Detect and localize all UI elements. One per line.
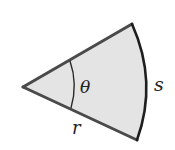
angle-label-theta: θ: [80, 77, 90, 97]
arc-label-s: s: [154, 73, 164, 95]
sector-diagram: θ s r: [0, 0, 175, 150]
radius-label-r: r: [72, 117, 82, 138]
